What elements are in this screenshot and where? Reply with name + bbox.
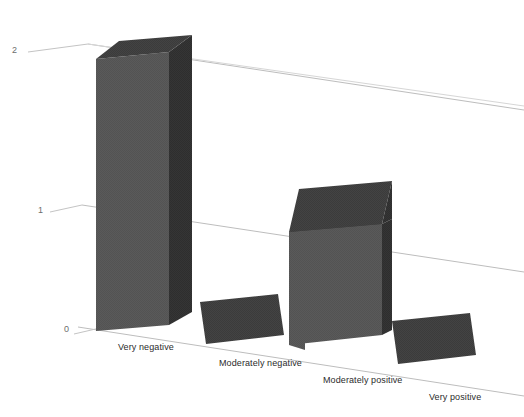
axis-ticks [28,44,100,334]
y-tick-label-0: 0 [64,324,69,334]
chart-canvas [0,0,524,417]
category-label-very-negative: Very negative [118,342,174,352]
bar-chart-figure: 2 1 0 Very negative Moderately negative … [0,0,524,417]
tick-y2 [28,44,88,52]
category-label-moderately-negative: Moderately negative [219,358,302,368]
tick-y1 [50,205,82,212]
bar-moderately-negative[interactable] [200,294,284,344]
bar-very-negative-side [169,35,192,325]
category-label-moderately-positive: Moderately positive [323,375,402,385]
bar-very-positive-top [392,313,476,364]
bar-moderately-positive-side [382,219,392,335]
bar-very-positive[interactable] [392,313,476,364]
bar-moderately-positive-front-face [289,224,382,345]
bar-moderately-negative-top [200,294,284,344]
y-tick-label-2: 2 [12,45,17,55]
bar-moderately-positive[interactable] [289,181,392,350]
category-label-very-positive: Very positive [429,392,481,402]
bar-very-negative[interactable] [96,35,192,331]
bar-moderately-positive-top-face [289,181,392,232]
y-tick-label-1: 1 [38,205,43,215]
bar-very-negative-front-face [96,52,169,331]
